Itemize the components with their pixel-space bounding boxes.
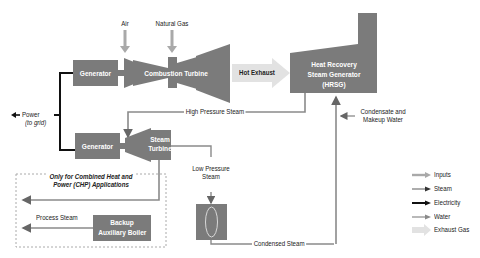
shaft-top [117,70,125,76]
power-sub-label: (to grid) [25,119,46,128]
air-label: Air [115,20,135,29]
condensed-steam-label: Condensed Steam [252,240,306,249]
electricity-lines [54,73,75,150]
legend-water-label: Water [434,213,450,222]
condensate-label-line2: Makeup Water [354,116,411,125]
hrsg-label-line3: (HRSG) [303,80,365,89]
backup-boiler-label-line2: Auxiliary Boiler [98,228,146,237]
legend-exhaust-gas-label: Exhaust Gas [434,226,469,235]
high-pressure-steam-label: High Pressure Steam [184,108,246,117]
generator-bottom-label: Generator [79,142,116,151]
hrsg-label-line2: Steam Generator [303,70,365,79]
power-arrow [11,112,20,118]
legend-steam-label: Steam [434,185,452,194]
steam-turbine-label-line2: Turbine [144,144,177,153]
hot-exhaust-label: Hot Exhaust [239,69,275,78]
condenser-box [196,204,227,240]
hrsg-label-line1: Heat Recovery [303,60,365,69]
process-steam-label: Process Steam [36,214,78,223]
low-pressure-steam-line [171,146,211,157]
shaft-bottom [119,143,126,149]
backup-boiler-label-line1: Backup [98,218,146,227]
legend-electricity-label: Electricity [434,199,460,208]
air-input-arrow [120,30,130,53]
steam-turbine-label-line1: Steam [144,135,177,144]
legend-symbols [412,172,431,236]
generator-top-label: Generator [77,69,114,78]
combustion-turbine-label: Combustion Turbine [143,69,209,78]
natural-gas-input-arrow [167,30,177,53]
chp-note-line2: Power (CHP) Applications [46,181,136,190]
legend-inputs-label: Inputs [434,171,451,180]
low-pressure-steam-label-line2: Steam [191,173,232,182]
natural-gas-label: Natural Gas [152,20,193,29]
